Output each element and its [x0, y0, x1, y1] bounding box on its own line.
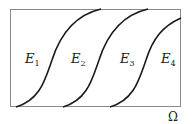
- partition-diagram: E1 E2 E3 E4 Ω: [0, 0, 193, 124]
- region-label-e2: E2: [70, 51, 86, 68]
- region-label-e1: E1: [24, 51, 40, 68]
- domain-label-omega: Ω: [168, 110, 178, 124]
- region-label-e4: E4: [160, 51, 176, 68]
- region-label-e3: E3: [119, 51, 135, 68]
- domain-frame: [11, 10, 181, 107]
